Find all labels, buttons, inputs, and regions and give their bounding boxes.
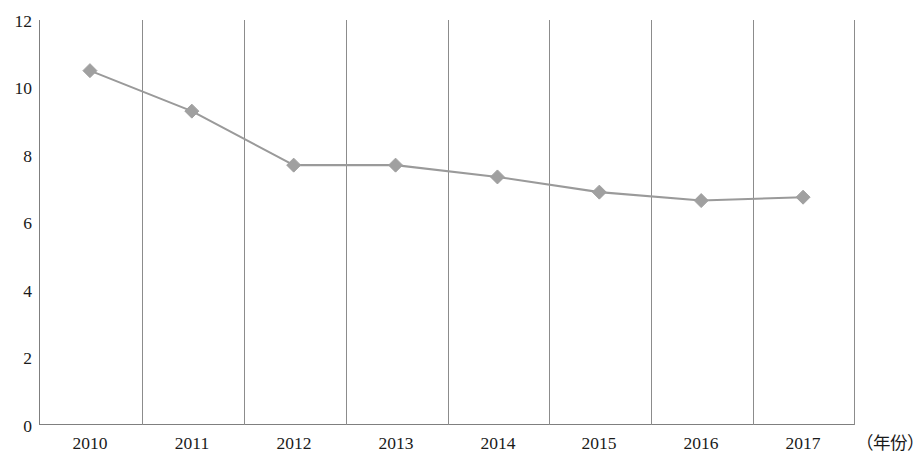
gridline [549, 20, 550, 425]
y-axis-tick-label: 8 [2, 148, 32, 166]
gridline [753, 20, 754, 425]
y-axis-tick-label: 0 [2, 418, 32, 436]
gridline [854, 20, 855, 425]
y-axis-tick-label: 4 [2, 283, 32, 301]
x-axis-tick-label: 2014 [481, 433, 516, 454]
x-axis: 2010 2011 2012 2013 2014 2015 2016 2017 [39, 433, 854, 459]
x-axis-tick-label: 2010 [73, 433, 108, 454]
x-axis-tick-label: 2017 [786, 433, 821, 454]
gridline [346, 20, 347, 425]
gridline [244, 20, 245, 425]
x-axis-unit-label: （年份） [856, 433, 917, 454]
plot-area [39, 20, 854, 425]
y-axis: 12 10 8 6 4 2 0 [0, 0, 32, 462]
y-axis-tick-label: 10 [2, 80, 32, 98]
y-axis-tick-label: 6 [2, 215, 32, 233]
y-axis-tick-label: 2 [2, 350, 32, 368]
x-axis-tick-label: 2012 [277, 433, 312, 454]
gridline [142, 20, 143, 425]
x-axis-tick-label: 2011 [175, 433, 209, 454]
x-axis-tick-label: 2016 [684, 433, 719, 454]
gridline [448, 20, 449, 425]
x-axis-tick-label: 2013 [379, 433, 414, 454]
gridline [651, 20, 652, 425]
y-axis-tick-label: 12 [2, 13, 32, 31]
x-axis-tick-label: 2015 [582, 433, 617, 454]
